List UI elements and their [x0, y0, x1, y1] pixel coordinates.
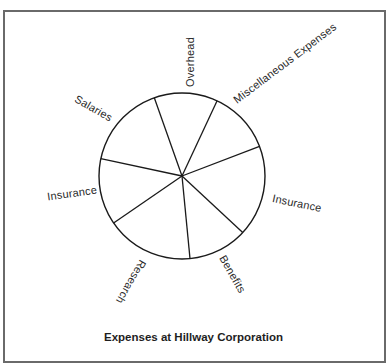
slice-divider-line	[101, 159, 182, 176]
chart-title: Expenses at Hillway Corporation	[0, 331, 387, 343]
slice-divider-line	[182, 176, 190, 259]
slice-divider-line	[182, 176, 243, 233]
slice-label-overhead: Overhead	[184, 37, 196, 87]
pie-slice-dividers	[101, 98, 260, 259]
slice-divider-line	[114, 176, 182, 223]
slice-divider-line	[154, 98, 182, 176]
